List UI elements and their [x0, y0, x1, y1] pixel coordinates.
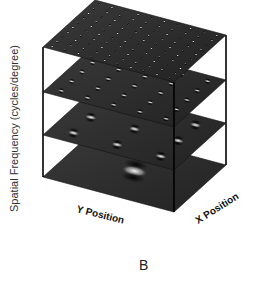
- y-axis-label: Spatial Frequency (cycles/degree): [8, 45, 20, 212]
- y-position-label: Y Position: [76, 203, 126, 225]
- multiscale-pyramid-figure: Spatial Frequency (cycles/degree) Y Posi…: [0, 0, 263, 284]
- panel-label: B: [139, 257, 148, 273]
- x-position-label: X Position: [193, 190, 240, 225]
- frequency-layers: [43, 0, 226, 212]
